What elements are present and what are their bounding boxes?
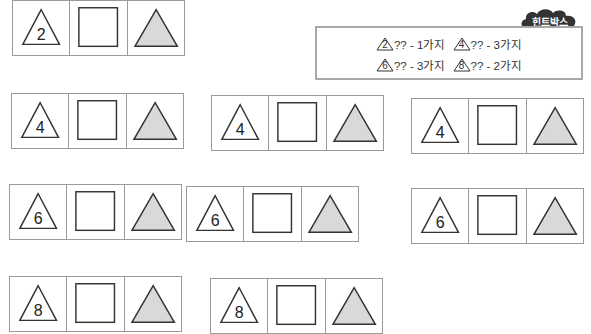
hint-text: ?? - 1가지 bbox=[394, 39, 445, 51]
puzzle-strip-row3-1: 6 bbox=[9, 184, 182, 240]
puzzle-strip-row2-3: 4 bbox=[411, 98, 584, 154]
filled-triangle-icon bbox=[125, 185, 181, 239]
answer-square-cell[interactable] bbox=[268, 279, 325, 333]
numbered-triangle-cell: 6 bbox=[412, 189, 469, 243]
triangle-number: 4 bbox=[12, 119, 68, 137]
filled-triangle-icon bbox=[326, 279, 382, 333]
filled-triangle-cell bbox=[128, 1, 184, 55]
numbered-triangle-cell: 6 bbox=[10, 185, 67, 239]
puzzle-strip-row1-1: 2 bbox=[12, 0, 185, 56]
triangle-number: 4 bbox=[412, 124, 468, 142]
filled-triangle-icon bbox=[527, 189, 583, 243]
mini-triangle: 8 bbox=[453, 58, 471, 72]
hint-text: ?? - 2가지 bbox=[471, 60, 522, 72]
filled-triangle-icon bbox=[127, 94, 183, 148]
filled-triangle-cell bbox=[127, 94, 183, 148]
puzzle-strip-row2-2: 4 bbox=[211, 95, 384, 151]
empty-square-icon bbox=[269, 96, 325, 150]
triangle-number: 8 bbox=[211, 304, 267, 322]
triangle-number: 6 bbox=[187, 212, 243, 230]
hint-text: ?? - 3가지 bbox=[471, 39, 522, 51]
puzzle-strip-row3-3: 6 bbox=[411, 188, 584, 244]
filled-triangle-icon bbox=[327, 96, 383, 150]
empty-square-icon bbox=[469, 189, 525, 243]
answer-square-cell[interactable] bbox=[67, 277, 124, 331]
puzzle-strip-row2-1: 4 bbox=[11, 93, 184, 149]
hint-line-2: 6 ?? - 3가지 8 ?? - 2가지 bbox=[317, 57, 581, 73]
empty-square-icon bbox=[268, 279, 324, 333]
numbered-triangle-cell: 2 bbox=[13, 1, 70, 55]
empty-square-icon bbox=[67, 277, 123, 331]
filled-triangle-cell bbox=[527, 189, 583, 243]
numbered-triangle-cell: 4 bbox=[12, 94, 69, 148]
triangle-number: 2 bbox=[13, 26, 69, 44]
hint-line-1: 2 ?? - 1가지 4 ?? - 3가지 bbox=[317, 36, 581, 52]
triangle-number: 6 bbox=[412, 214, 468, 232]
mini-triangle: 2 bbox=[376, 37, 394, 51]
numbered-triangle-cell: 6 bbox=[187, 187, 244, 241]
hint-box: 2 ?? - 1가지 4 ?? - 3가지 6 ?? - 3가지 8 ?? - … bbox=[315, 26, 583, 80]
numbered-triangle-cell: 8 bbox=[211, 279, 268, 333]
hint-text: ?? - 3가지 bbox=[394, 60, 445, 72]
triangle-number: 8 bbox=[10, 302, 66, 320]
answer-square-cell[interactable] bbox=[70, 1, 127, 55]
empty-square-icon bbox=[67, 185, 123, 239]
filled-triangle-cell bbox=[125, 277, 181, 331]
filled-triangle-cell bbox=[326, 279, 382, 333]
answer-square-cell[interactable] bbox=[244, 187, 301, 241]
triangle-number: 6 bbox=[10, 210, 66, 228]
filled-triangle-icon bbox=[128, 1, 184, 55]
empty-square-icon bbox=[469, 99, 525, 153]
answer-square-cell[interactable] bbox=[469, 189, 526, 243]
filled-triangle-icon bbox=[302, 187, 358, 241]
answer-square-cell[interactable] bbox=[469, 99, 526, 153]
filled-triangle-cell bbox=[327, 96, 383, 150]
triangle-number: 4 bbox=[212, 121, 268, 139]
numbered-triangle-cell: 8 bbox=[10, 277, 67, 331]
filled-triangle-icon bbox=[527, 99, 583, 153]
mini-triangle: 6 bbox=[376, 58, 394, 72]
numbered-triangle-cell: 4 bbox=[212, 96, 269, 150]
filled-triangle-cell bbox=[527, 99, 583, 153]
puzzle-strip-row4-1: 8 bbox=[9, 276, 182, 332]
puzzle-strip-row4-2: 8 bbox=[210, 278, 383, 334]
empty-square-icon bbox=[69, 94, 125, 148]
filled-triangle-icon bbox=[125, 277, 181, 331]
answer-square-cell[interactable] bbox=[269, 96, 326, 150]
empty-square-icon bbox=[244, 187, 300, 241]
mini-triangle: 4 bbox=[453, 37, 471, 51]
numbered-triangle-cell: 4 bbox=[412, 99, 469, 153]
answer-square-cell[interactable] bbox=[69, 94, 126, 148]
answer-square-cell[interactable] bbox=[67, 185, 124, 239]
puzzle-strip-row3-2: 6 bbox=[186, 186, 359, 242]
filled-triangle-cell bbox=[302, 187, 358, 241]
filled-triangle-cell bbox=[125, 185, 181, 239]
empty-square-icon bbox=[70, 1, 126, 55]
